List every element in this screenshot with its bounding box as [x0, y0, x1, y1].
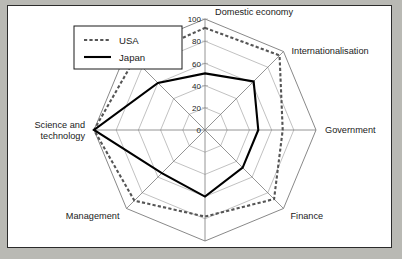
tick-label-40: 40: [192, 82, 201, 91]
chart-legend: USA Japan: [74, 26, 182, 69]
axis-label-management: Management: [66, 211, 120, 221]
legend-label-usa: USA: [119, 35, 139, 46]
series-polygon-japan: [94, 73, 258, 196]
legend-box: [74, 26, 182, 69]
axis-label-internationalisation: Internationalisation: [291, 46, 368, 56]
screenshot-root: 020406080100 Domestic economyInternation…: [0, 0, 402, 259]
tick-label-20: 20: [192, 104, 201, 113]
tick-label-100: 100: [188, 15, 202, 24]
radar-chart: 020406080100 Domestic economyInternation…: [8, 6, 391, 247]
axis-label-domestic-economy: Domestic economy: [215, 7, 294, 17]
tick-label-80: 80: [192, 37, 201, 46]
axis-label-government: Government: [325, 125, 376, 135]
chart-frame: 020406080100 Domestic economyInternation…: [7, 5, 392, 248]
legend-label-japan: Japan: [119, 52, 145, 63]
tick-label-0: 0: [197, 126, 202, 135]
axis-label-science-and-technology: Science andtechnology: [34, 120, 85, 141]
axis-label-finance: Finance: [290, 211, 323, 221]
tick-label-60: 60: [192, 60, 201, 69]
